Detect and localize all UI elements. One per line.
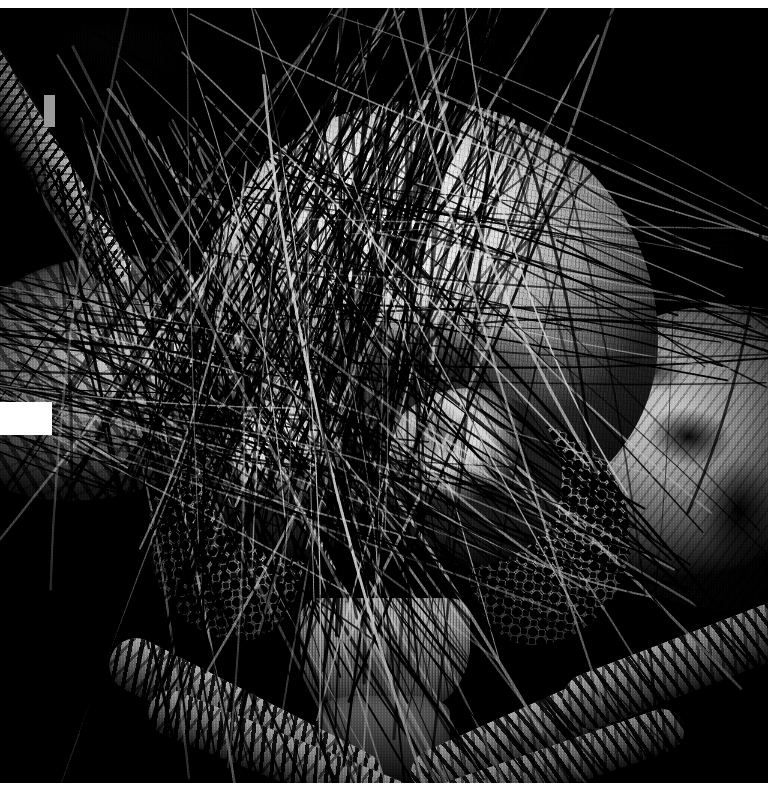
white-block-mask xyxy=(0,402,52,435)
gray-tab-mark xyxy=(44,95,55,127)
monochrome-filter xyxy=(0,8,768,783)
micrograph-plate xyxy=(0,8,768,783)
sem-micrograph-figure xyxy=(0,0,778,804)
